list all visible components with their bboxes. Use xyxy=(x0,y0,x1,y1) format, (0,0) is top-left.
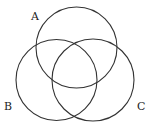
set-a-circle xyxy=(36,7,117,88)
set-b-circle xyxy=(16,40,97,121)
set-b-label: B xyxy=(4,100,12,113)
set-a-label: A xyxy=(30,10,40,23)
venn-diagram: A B C xyxy=(0,0,153,128)
set-c-circle xyxy=(52,39,134,121)
set-c-label: C xyxy=(137,100,145,113)
